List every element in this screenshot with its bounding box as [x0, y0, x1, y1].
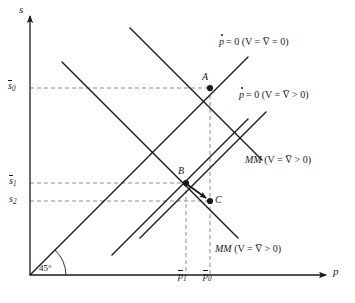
point-c-marker [207, 198, 213, 204]
point-b-marker [183, 180, 189, 186]
pdot-symbol-1: p [219, 37, 224, 47]
tick-s2-sub: 2 [13, 198, 17, 206]
curve-label-pdot0-v-zero: p = 0 (V = V̅ = 0) [219, 37, 289, 47]
pdot-eq-1: = 0 [226, 36, 239, 47]
tick-p1-base: p [178, 271, 183, 281]
mm-name-lower: MM [215, 243, 232, 254]
tick-label-p1: p1 [178, 271, 187, 283]
point-c-label: C [215, 195, 222, 205]
pdot-paren-2: (V = V̅ > 0) [262, 89, 309, 100]
schedule-lines [30, 28, 266, 275]
tick-p1-sub: 1 [183, 275, 187, 283]
tick-s0-sub: 0 [12, 85, 16, 93]
mm-name-upper: MM [245, 154, 262, 165]
tick-label-s0: s0 [8, 81, 16, 93]
point-a-label: A [202, 72, 208, 82]
angle-arc-45 [55, 250, 66, 275]
mm-paren-lower: (V = V̅ > 0) [234, 243, 281, 254]
tick-label-s1: s1 [9, 176, 17, 188]
angle-45-label: 45° [39, 264, 52, 273]
axes [30, 16, 326, 275]
tick-s1-sub: 1 [13, 180, 17, 188]
tick-p0-sub: 0 [208, 275, 212, 283]
x-axis-label: p [333, 266, 339, 277]
pdot-symbol-2: p [239, 90, 244, 100]
line-pdot0-v-positive [140, 112, 266, 238]
tick-s0-base: s [8, 81, 12, 91]
tick-label-s2: s2 [9, 194, 17, 206]
tick-p0-base: p [203, 271, 208, 281]
point-b-label: B [178, 166, 184, 176]
line-pdot0-v-zero [112, 119, 248, 255]
phase-diagram-figure: s p s0 s1 s2 p1 p0 A B C p = 0 (V = V̅ =… [0, 0, 355, 303]
pdot-eq-2: = 0 [246, 89, 259, 100]
diagram-canvas [0, 0, 355, 303]
curve-label-mm-upper: MM (V = V̅ > 0) [245, 155, 311, 165]
pdot-paren-1: (V = V̅ = 0) [242, 36, 289, 47]
y-axis-label: s [19, 4, 23, 15]
tick-s1-base: s [9, 176, 13, 186]
curve-label-mm-lower: MM (V = V̅ > 0) [215, 244, 281, 254]
mm-paren-upper: (V = V̅ > 0) [264, 154, 311, 165]
point-a-marker [207, 85, 213, 91]
tick-label-p0: p0 [203, 271, 212, 283]
equilibrium-points [183, 85, 213, 204]
curve-label-pdot0-v-positive: p = 0 (V = V̅ > 0) [239, 90, 309, 100]
